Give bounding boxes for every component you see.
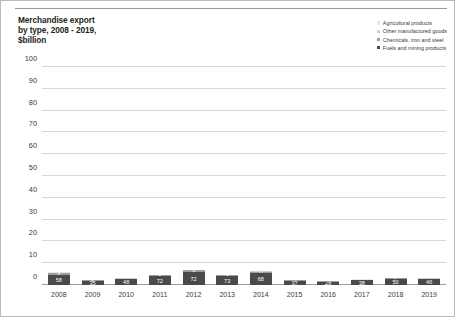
x-axis-tick-label: 2018 bbox=[388, 291, 404, 298]
bar-stack[interactable]: 646 bbox=[418, 273, 440, 285]
legend-label: Other manufactured goods bbox=[383, 28, 447, 34]
y-axis-tick-label: 90 bbox=[29, 75, 37, 84]
x-axis-tick-label: 2015 bbox=[287, 291, 303, 298]
bar-stack[interactable]: 873 bbox=[216, 273, 238, 285]
legend-swatch-icon bbox=[377, 38, 380, 41]
legend-item[interactable]: Agricultural products bbox=[377, 20, 432, 26]
bar-segment-label: 38 bbox=[359, 280, 365, 285]
bar-column[interactable]: 5282016 bbox=[311, 67, 345, 285]
legend-item[interactable]: Chemicals, iron and steel bbox=[377, 37, 443, 43]
bar-stack[interactable]: 535 bbox=[82, 273, 104, 285]
chart-title: Merchandise export by type, 2008 - 2019,… bbox=[18, 15, 228, 46]
legend-item[interactable]: Other manufactured goods bbox=[377, 28, 447, 34]
legend-label: Chemicals, iron and steel bbox=[383, 37, 444, 43]
bar-column[interactable]: 39722012 bbox=[177, 67, 211, 285]
bar-group: 3858200853520096482010872201139722012873… bbox=[42, 67, 446, 285]
bar-column[interactable]: 6482010 bbox=[109, 67, 143, 285]
bar-segment[interactable]: 28 bbox=[317, 282, 339, 285]
x-axis-tick-label: 2009 bbox=[85, 291, 101, 298]
x-axis-tick-label: 2012 bbox=[186, 291, 202, 298]
bar-segment[interactable]: 50 bbox=[385, 279, 407, 285]
y-axis-tick-label: 60 bbox=[29, 141, 37, 150]
y-axis-tick-label: 50 bbox=[29, 163, 37, 172]
legend-swatch-icon bbox=[377, 46, 380, 49]
bar-stack[interactable]: 650 bbox=[385, 273, 407, 285]
x-axis-tick-label: 2019 bbox=[421, 291, 437, 298]
chart-figure: Merchandise export by type, 2008 - 2019,… bbox=[0, 0, 455, 317]
bar-segment-label: 46 bbox=[426, 279, 432, 285]
y-axis-tick-label: 0 bbox=[33, 272, 37, 281]
chart-legend: Agricultural productsOther manufactured … bbox=[377, 20, 447, 51]
bar-segment-label: 28 bbox=[325, 282, 331, 285]
bar-stack[interactable]: 3972 bbox=[183, 267, 205, 285]
x-axis-tick-label: 2017 bbox=[354, 291, 370, 298]
bar-column[interactable]: 6462019 bbox=[412, 67, 446, 285]
legend-swatch-icon bbox=[377, 21, 380, 24]
bar-segment-label: 50 bbox=[392, 279, 398, 285]
bar-column[interactable]: 8722011 bbox=[143, 67, 177, 285]
bar-stack[interactable]: 872 bbox=[149, 273, 171, 285]
bar-stack[interactable]: 528 bbox=[317, 273, 339, 285]
bar-segment[interactable]: 48 bbox=[115, 279, 137, 285]
bar-segment-label: 72 bbox=[157, 278, 163, 284]
legend-label: Agricultural products bbox=[383, 20, 432, 26]
bar-segment-label: 48 bbox=[123, 279, 129, 285]
bar-segment[interactable]: 35 bbox=[82, 281, 104, 285]
x-axis-tick-label: 2010 bbox=[118, 291, 134, 298]
bar-segment[interactable]: 38 bbox=[351, 280, 373, 285]
bar-segment-label: 73 bbox=[224, 278, 230, 284]
bar-segment-label: 68 bbox=[258, 276, 264, 282]
bar-column[interactable]: 6502018 bbox=[379, 67, 413, 285]
x-axis-tick-label: 2011 bbox=[152, 291, 167, 298]
bar-segment[interactable]: 73 bbox=[216, 276, 238, 285]
y-axis-tick-label: 10 bbox=[29, 250, 37, 259]
y-axis-tick-label: 70 bbox=[29, 119, 37, 128]
y-axis-tick-label: 30 bbox=[29, 206, 37, 215]
bar-stack[interactable]: 648 bbox=[115, 273, 137, 285]
bar-segment-label: 72 bbox=[190, 276, 196, 282]
legend-item[interactable]: Fuels and mining products bbox=[377, 45, 446, 51]
bar-column[interactable]: 36682014 bbox=[244, 67, 278, 285]
bar-segment[interactable]: 37 bbox=[284, 281, 306, 285]
bar-stack[interactable]: 538 bbox=[351, 273, 373, 285]
x-axis-tick-label: 2008 bbox=[51, 291, 67, 298]
y-axis-tick-label: 100 bbox=[25, 54, 37, 63]
bar-stack[interactable]: 3668 bbox=[250, 267, 272, 285]
bar-segment[interactable]: 68 bbox=[250, 273, 272, 285]
plot-area: 0102030405060708090100 38582008535200964… bbox=[42, 67, 446, 285]
bar-segment-label: 35 bbox=[89, 281, 95, 285]
bar-segment-label: 37 bbox=[291, 281, 297, 285]
bar-segment[interactable]: 72 bbox=[149, 276, 171, 285]
bar-column[interactable]: 5352009 bbox=[76, 67, 110, 285]
y-axis-tick-label: 80 bbox=[29, 97, 37, 106]
bar-segment[interactable]: 46 bbox=[418, 279, 440, 285]
bar-segment[interactable]: 58 bbox=[48, 275, 70, 285]
bar-segment[interactable]: 72 bbox=[183, 272, 205, 285]
y-axis-tick-label: 20 bbox=[29, 228, 37, 237]
legend-swatch-icon bbox=[377, 30, 380, 33]
y-axis-tick-label: 40 bbox=[29, 184, 37, 193]
bar-stack[interactable]: 3858 bbox=[48, 267, 70, 285]
legend-label: Fuels and mining products bbox=[383, 45, 446, 51]
bar-column[interactable]: 5382017 bbox=[345, 67, 379, 285]
bar-column[interactable]: 38582008 bbox=[42, 67, 76, 285]
bar-segment-label: 58 bbox=[56, 277, 62, 283]
x-axis-tick-label: 2013 bbox=[219, 291, 235, 298]
bar-column[interactable]: 8732013 bbox=[210, 67, 244, 285]
bar-stack[interactable]: 537 bbox=[284, 273, 306, 285]
bar-column[interactable]: 5372015 bbox=[278, 67, 312, 285]
top-divider-rule bbox=[15, 8, 447, 9]
x-axis-tick-label: 2016 bbox=[320, 291, 336, 298]
x-axis-tick-label: 2014 bbox=[253, 291, 269, 298]
